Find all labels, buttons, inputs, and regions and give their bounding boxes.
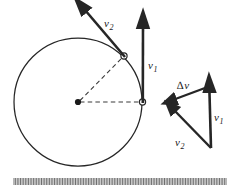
label-v1-circle: v1 bbox=[148, 56, 157, 74]
physics-diagram: v1 v2 ∆v v1 v2 bbox=[0, 0, 239, 188]
hatch-strip bbox=[14, 178, 226, 185]
radius-line-v2 bbox=[80, 58, 122, 101]
label-v1-triangle-subscript: 1 bbox=[219, 117, 223, 126]
label-delta-v-symbol: v bbox=[184, 79, 189, 91]
label-v2-triangle: v2 bbox=[175, 133, 184, 151]
label-v2-circle-subscript: 2 bbox=[109, 23, 113, 32]
center-point-dot bbox=[75, 99, 81, 105]
label-v1-circle-subscript: 1 bbox=[153, 65, 157, 74]
label-v1-triangle: v1 bbox=[214, 108, 223, 126]
label-v2-circle: v2 bbox=[104, 14, 113, 32]
label-delta-v: ∆v bbox=[177, 76, 189, 92]
triangle-side-v1 bbox=[209, 90, 211, 148]
label-v2-triangle-subscript: 2 bbox=[180, 142, 184, 151]
diagram-canvas bbox=[0, 0, 239, 188]
delta-symbol-icon: ∆ bbox=[177, 79, 184, 91]
